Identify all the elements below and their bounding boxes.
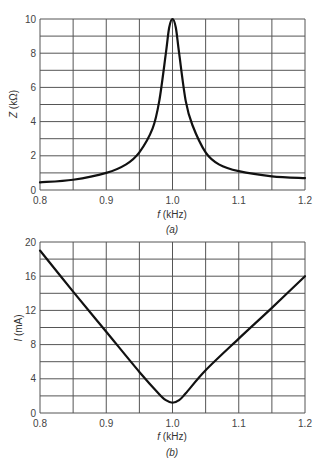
y-tick-label: 8 xyxy=(30,48,36,59)
x-tick-label: 1.1 xyxy=(232,418,246,429)
x-ticks-b: 0.80.91.01.11.2 xyxy=(33,418,312,429)
y-tick-label: 20 xyxy=(25,237,37,248)
grid-b xyxy=(40,242,305,413)
y-tick-label: 4 xyxy=(30,373,36,384)
y-axis-label-b: I (mA) xyxy=(13,314,24,341)
x-tick-label: 0.9 xyxy=(99,195,113,206)
x-tick-label: 1.1 xyxy=(232,195,246,206)
y-ticks-a: 0246810 xyxy=(25,14,37,196)
y-tick-label: 6 xyxy=(30,82,36,93)
y-tick-label: 8 xyxy=(30,339,36,350)
y-tick-label: 16 xyxy=(25,271,37,282)
x-ticks-a: 0.80.91.01.11.2 xyxy=(33,195,312,206)
y-tick-label: 4 xyxy=(30,116,36,127)
y-ticks-b: 048121620 xyxy=(25,237,37,419)
y-tick-label: 0 xyxy=(30,408,36,419)
y-axis-label-a: Z (kΩ) xyxy=(8,90,19,119)
caption-a: (a) xyxy=(166,224,178,235)
x-tick-label: 0.8 xyxy=(33,195,47,206)
x-axis-label-a: f (kHz) xyxy=(157,209,186,220)
figure: 0246810 0.80.91.01.11.2 Z (kΩ) f (kHz) (… xyxy=(0,0,329,468)
x-tick-label: 1.0 xyxy=(166,418,180,429)
chart-b: 048121620 0.80.91.01.11.2 I (mA) f (kHz)… xyxy=(13,237,312,459)
x-tick-label: 1.2 xyxy=(298,418,312,429)
chart-a: 0246810 0.80.91.01.11.2 Z (kΩ) f (kHz) (… xyxy=(8,14,312,236)
x-tick-label: 0.8 xyxy=(33,418,47,429)
x-axis-label-b: f (kHz) xyxy=(157,431,186,442)
x-tick-label: 0.9 xyxy=(99,418,113,429)
y-tick-label: 0 xyxy=(30,185,36,196)
caption-b: (b) xyxy=(166,447,178,458)
x-tick-label: 1.0 xyxy=(166,195,180,206)
grid-a xyxy=(40,19,305,190)
y-tick-label: 10 xyxy=(25,14,37,25)
y-tick-label: 2 xyxy=(30,150,36,161)
y-tick-label: 12 xyxy=(25,305,37,316)
x-tick-label: 1.2 xyxy=(298,195,312,206)
